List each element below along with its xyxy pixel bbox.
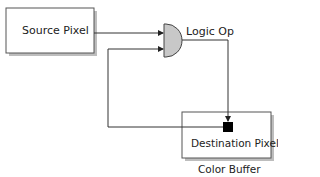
color-buffer-label: Color Buffer — [198, 163, 261, 175]
logic-op-label: Logic Op — [186, 25, 234, 38]
source-pixel-label: Source Pixel — [22, 24, 89, 37]
destination-pixel-icon — [223, 122, 233, 132]
logic-op-gate-icon — [164, 24, 182, 57]
destination-pixel-label: Destination Pixel — [191, 137, 278, 149]
edge-logic-op-to-destination — [182, 40, 228, 121]
